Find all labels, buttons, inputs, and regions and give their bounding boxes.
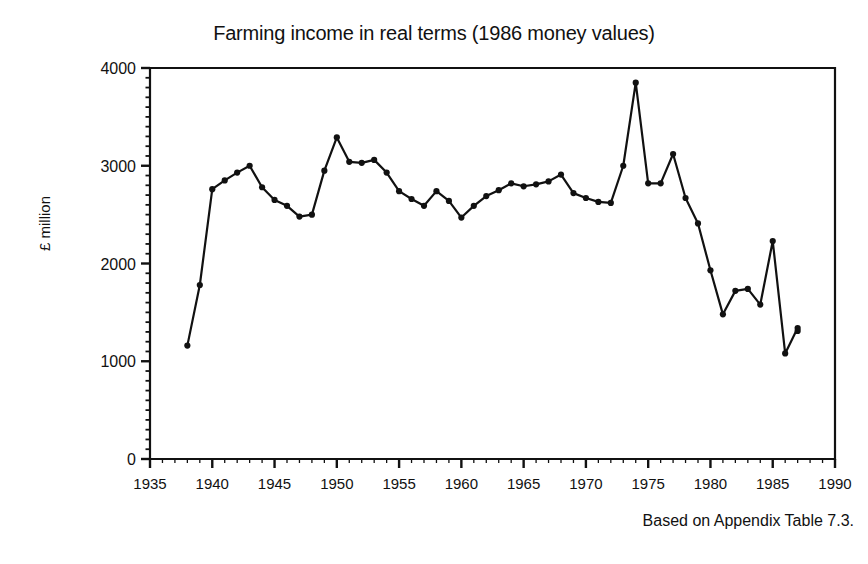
svg-text:4000: 4000 xyxy=(100,60,136,77)
svg-text:1965: 1965 xyxy=(507,475,540,492)
svg-text:2000: 2000 xyxy=(100,256,136,273)
figure: Farming income in real terms (1986 money… xyxy=(0,0,868,564)
svg-text:1945: 1945 xyxy=(258,475,291,492)
axes xyxy=(141,68,835,468)
svg-text:1960: 1960 xyxy=(445,475,478,492)
svg-text:1980: 1980 xyxy=(694,475,727,492)
svg-text:1990: 1990 xyxy=(818,475,851,492)
svg-text:0: 0 xyxy=(127,451,136,468)
chart-plot-area: 0100020003000400019351940194519501955196… xyxy=(0,0,868,564)
svg-text:3000: 3000 xyxy=(100,158,136,175)
data-series-line xyxy=(184,80,800,357)
svg-text:1970: 1970 xyxy=(569,475,602,492)
svg-text:1950: 1950 xyxy=(320,475,353,492)
svg-text:1985: 1985 xyxy=(756,475,789,492)
svg-text:1975: 1975 xyxy=(631,475,664,492)
axis-tick-labels: 0100020003000400019351940194519501955196… xyxy=(100,60,851,492)
svg-text:1940: 1940 xyxy=(196,475,229,492)
svg-text:1955: 1955 xyxy=(382,475,415,492)
source-footnote: Based on Appendix Table 7.3. xyxy=(0,512,854,530)
svg-text:1935: 1935 xyxy=(133,475,166,492)
svg-text:1000: 1000 xyxy=(100,353,136,370)
